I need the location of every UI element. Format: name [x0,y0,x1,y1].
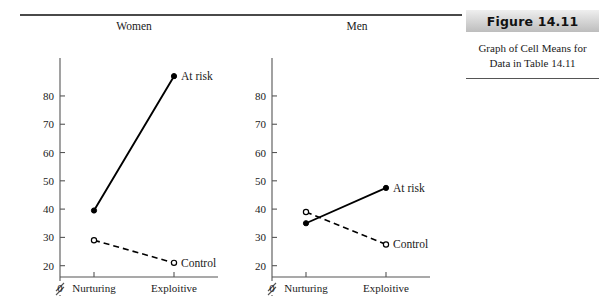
x-tick-label: Exploitive [151,282,197,294]
x-tick-label: Exploitive [363,282,409,294]
data-point-control [91,238,96,243]
data-point-at-risk [171,74,176,79]
chart-panel-men: Men 203040506070800NurturingExploitiveAt… [246,14,468,296]
x-tick-label: Nurturing [72,282,116,294]
data-point-control [303,209,308,214]
data-point-at-risk [303,221,308,226]
figure-caption-rule [466,78,599,79]
figure-page: Women 203040506070800NurturingExploitive… [0,0,603,304]
series-label-at-risk: At risk [181,70,213,82]
line-chart-men: 203040506070800NurturingExploitiveAt ris… [246,14,468,296]
y-tick-label: 20 [43,260,55,272]
y-tick-label: 20 [255,260,267,272]
y-tick-label: 70 [255,118,267,130]
figure-number-header: Figure 14.11 [466,10,599,32]
y-tick-label: 60 [43,147,55,159]
data-point-control [171,260,176,265]
data-point-at-risk [383,185,388,190]
data-point-at-risk [91,208,96,213]
x-tick-label: Nurturing [284,282,328,294]
series-line-at-risk [94,76,174,210]
line-chart-women: 203040506070800NurturingExploitiveAt ris… [14,14,254,296]
y-tick-label: 80 [255,90,267,102]
data-point-control [383,242,388,247]
x-axis-origin-label: 0 [269,282,275,294]
y-tick-label: 50 [255,175,267,187]
chart-panel-women: Women 203040506070800NurturingExploitive… [14,14,254,296]
figure-caption-text: Graph of Cell Means for Data in Table 14… [466,41,599,70]
figure-caption-line-1: Graph of Cell Means for [478,42,586,54]
series-line-at-risk [306,188,386,223]
y-tick-label: 30 [255,231,267,243]
y-tick-label: 40 [255,203,267,215]
y-tick-label: 40 [43,203,55,215]
series-label-control: Control [181,257,216,269]
y-tick-label: 50 [43,175,55,187]
series-label-control: Control [393,238,428,250]
y-tick-label: 70 [43,118,55,130]
figure-caption-line-2: Data in Table 14.11 [490,57,576,69]
y-tick-label: 80 [43,90,55,102]
x-axis-origin-label: 0 [57,282,63,294]
figure-number-label: Figure 14.11 [487,14,579,29]
y-tick-label: 30 [43,231,55,243]
series-label-at-risk: At risk [393,182,425,194]
series-line-control [306,212,386,245]
series-line-control [94,240,174,263]
figure-caption-block: Figure 14.11 Graph of Cell Means for Dat… [466,10,599,79]
y-tick-label: 60 [255,147,267,159]
